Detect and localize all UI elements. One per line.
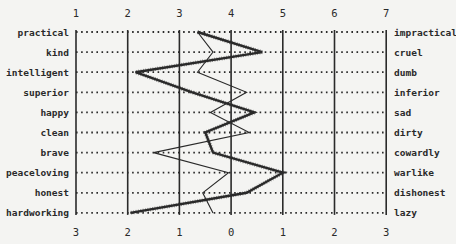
left-label-hardworking: hardworking bbox=[6, 207, 69, 218]
left-label-clean: clean bbox=[40, 127, 69, 138]
right-label-dirty: dirty bbox=[394, 127, 423, 138]
right-label-impractical: impractical bbox=[394, 27, 456, 38]
bottom-tick-label: 0 bbox=[228, 226, 234, 238]
top-tick-label: 1 bbox=[73, 7, 79, 19]
top-axis-ticks: 1234567 bbox=[73, 7, 390, 19]
bottom-tick-label: 2 bbox=[125, 226, 131, 238]
bottom-tick-label: 1 bbox=[280, 226, 286, 238]
right-label-inferior: inferior bbox=[394, 87, 440, 98]
right-label-lazy: lazy bbox=[394, 207, 417, 218]
right-label-cowardly: cowardly bbox=[394, 147, 440, 158]
profile-lines bbox=[130, 32, 282, 213]
left-label-honest: honest bbox=[35, 187, 69, 198]
top-tick-label: 3 bbox=[176, 7, 182, 19]
bottom-tick-label: 3 bbox=[383, 226, 389, 238]
top-tick-label: 7 bbox=[383, 7, 389, 19]
left-label-happy: happy bbox=[40, 107, 69, 118]
left-label-superior: superior bbox=[23, 87, 69, 98]
top-tick-label: 2 bbox=[125, 7, 131, 19]
right-label-dumb: dumb bbox=[394, 67, 417, 78]
right-label-cruel: cruel bbox=[394, 47, 423, 58]
left-label-kind: kind bbox=[46, 47, 69, 58]
semantic-differential-chart: 1234567 3210123 practicalkindintelligent… bbox=[0, 0, 456, 244]
bottom-axis-ticks: 3210123 bbox=[73, 226, 390, 238]
left-label-brave: brave bbox=[40, 147, 69, 158]
left-label-intelligent: intelligent bbox=[6, 67, 69, 78]
top-tick-label: 5 bbox=[280, 7, 286, 19]
thick-profile-hatching bbox=[130, 32, 282, 213]
right-label-warlike: warlike bbox=[394, 167, 434, 178]
bottom-tick-label: 2 bbox=[331, 226, 337, 238]
bottom-tick-label: 3 bbox=[73, 226, 79, 238]
top-tick-label: 6 bbox=[331, 7, 337, 19]
left-label-peaceloving: peaceloving bbox=[6, 167, 69, 178]
right-adjective-labels: impracticalcrueldumbinferiorsaddirtycowa… bbox=[394, 27, 456, 219]
top-tick-label: 4 bbox=[228, 7, 234, 19]
right-label-sad: sad bbox=[394, 107, 411, 118]
left-label-practical: practical bbox=[18, 27, 70, 38]
left-adjective-labels: practicalkindintelligentsuperiorhappycle… bbox=[6, 27, 69, 219]
right-label-dishonest: dishonest bbox=[394, 187, 445, 198]
bottom-tick-label: 1 bbox=[176, 226, 182, 238]
